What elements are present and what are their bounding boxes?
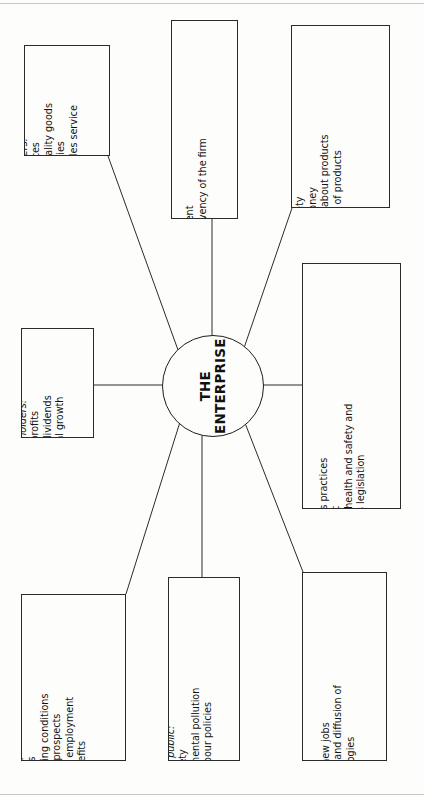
node-employees-item-4: Fringe benefits	[76, 694, 88, 761]
node-customers: Customers: Low prices High quality goods…	[24, 45, 110, 156]
node-consumerists-item-1: Value for money	[307, 134, 319, 208]
node-employees-item-3: Security of employment	[63, 694, 75, 761]
node-the-state: The state: Tax revenue Creation of new j…	[302, 572, 387, 761]
node-shareholders-text: Shareholders: High profits High dividend…	[21, 395, 67, 438]
node-creditors-title: Creditors:	[172, 138, 184, 219]
node-the-law-item-2: Sanctity of contract	[330, 404, 342, 509]
node-customers-item-0: Low prices	[30, 103, 42, 156]
page-edge-bottom	[0, 794, 424, 795]
node-the-general-public-item-2: Good neighbour policies	[202, 688, 214, 761]
node-shareholders-item-0: High profits	[30, 395, 42, 438]
node-the-law-item-0: Fair competition	[305, 404, 317, 509]
node-the-general-public-item-0: Product safety	[178, 688, 190, 761]
node-employees-item-0: High wages	[26, 694, 38, 761]
node-customers-item-3: After-sales service	[68, 103, 80, 156]
node-shareholders-title: Shareholders:	[21, 395, 30, 438]
node-customers-text: Customers: Low prices High quality goods…	[24, 103, 80, 156]
node-consumerists-text: Consumerists: Product safety Value for m…	[291, 134, 356, 208]
node-customers-item-1: High quality goods	[43, 103, 55, 156]
node-employees-item-2: Promotion prospects	[51, 694, 63, 761]
page-edge-top	[0, 3, 424, 4]
node-employees-item-1: Good working conditions	[39, 694, 51, 761]
enterprise-line-1: THE	[198, 338, 213, 434]
node-shareholders-item-2: Capital growth	[54, 395, 66, 438]
enterprise-node: THE ENTERPRISE	[162, 335, 264, 437]
node-creditors-item-1: Long term solvency of the firm	[197, 138, 209, 219]
node-the-general-public-text: The general public: Product safety No en…	[168, 688, 215, 761]
node-consumerists-item-0: Product safety	[294, 134, 306, 208]
node-the-law-item-1: No corrupt business practices	[318, 404, 330, 509]
node-shareholders: Shareholders: High profits High dividend…	[21, 328, 94, 438]
node-the-state-item-2: Introduction and diffusion of	[332, 685, 344, 761]
enterprise-label: THE ENTERPRISE	[198, 338, 228, 434]
node-the-state-item-1: Creation of new jobs	[320, 685, 332, 761]
node-shareholders-item-1: High dividends	[42, 395, 54, 438]
node-the-law-item-3: Implementation of health and safety and	[342, 404, 354, 509]
node-employees-text: Employees: High wages Good working condi…	[21, 694, 88, 761]
node-consumerists-item-2: Information about products	[319, 134, 331, 208]
node-the-general-public-title: The general public:	[168, 688, 178, 761]
node-the-law-text: The law: Fair competition No corrupt bus…	[302, 404, 367, 509]
connector-consumerists	[244, 208, 292, 348]
connector-customers	[108, 156, 178, 350]
node-the-state-item-3: new technologies	[345, 685, 357, 761]
connector-employees	[126, 422, 180, 594]
node-creditors-item-0: Prompt payment	[185, 138, 197, 219]
node-creditors-text: Creditors: Prompt payment Long term solv…	[172, 138, 209, 219]
node-the-general-public-item-1: No environmental pollution	[190, 688, 202, 761]
node-creditors: Creditors: Prompt payment Long term solv…	[171, 20, 238, 219]
node-consumerists-item-4: Redress	[344, 134, 356, 208]
node-consumerists: Consumerists: Product safety Value for m…	[291, 25, 390, 208]
node-customers-item-2: Warranties	[55, 103, 67, 156]
node-the-state-item-0: Tax revenue	[307, 685, 319, 761]
node-the-general-public: The general public: Product safety No en…	[168, 577, 240, 761]
node-the-law-item-4: equal opportunities legislation	[355, 404, 367, 509]
node-consumerists-item-3: Wide choice of products	[331, 134, 343, 208]
diagram-canvas: THE ENTERPRISE Customers: Low prices Hig…	[0, 0, 424, 797]
node-employees: Employees: High wages Good working condi…	[21, 594, 126, 761]
node-the-law: The law: Fair competition No corrupt bus…	[302, 263, 401, 509]
node-the-state-text: The state: Tax revenue Creation of new j…	[302, 685, 357, 761]
connector-the-state	[245, 423, 303, 572]
enterprise-line-2: ENTERPRISE	[213, 338, 228, 434]
